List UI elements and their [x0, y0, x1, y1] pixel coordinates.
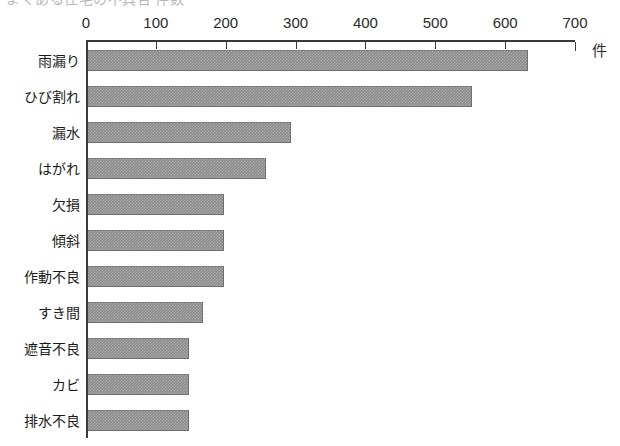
- bar-chart: よくある住宅の不具合 件数 0100200300400500600700 件 雨…: [0, 0, 620, 446]
- category-label-1: ひび割れ: [24, 89, 80, 105]
- category-label-6: 作動不良: [24, 269, 80, 285]
- x-tick-mark-500: [435, 42, 436, 49]
- x-tick-mark-300: [296, 42, 297, 49]
- x-tick-label-600: 600: [493, 14, 518, 32]
- category-label-10: 排水不良: [24, 413, 80, 429]
- category-label-3: はがれ: [38, 161, 80, 177]
- category-label-0: 雨漏り: [38, 53, 80, 69]
- x-tick-label-100: 100: [143, 14, 168, 32]
- bar-6: [88, 266, 224, 287]
- x-tick-label-200: 200: [213, 14, 238, 32]
- x-tick-mark-200: [226, 42, 227, 49]
- x-tick-label-400: 400: [353, 14, 378, 32]
- x-tick-label-300: 300: [283, 14, 308, 32]
- x-axis-tick-labels: 0100200300400500600700: [0, 14, 620, 34]
- bar-2: [88, 122, 291, 143]
- x-axis-unit-label: 件: [592, 42, 607, 60]
- plot-area: [86, 40, 575, 438]
- category-label-5: 傾斜: [52, 233, 80, 249]
- x-tick-mark-600: [505, 42, 506, 49]
- clipped-caption-strip: よくある住宅の不具合 件数: [0, 0, 620, 9]
- x-tick-mark-100: [156, 42, 157, 49]
- bar-7: [88, 302, 203, 323]
- bar-0: [88, 50, 528, 71]
- bar-4: [88, 194, 224, 215]
- category-label-2: 漏水: [52, 125, 80, 141]
- x-tick-label-700: 700: [562, 14, 587, 32]
- bar-9: [88, 374, 189, 395]
- x-tick-label-500: 500: [423, 14, 448, 32]
- category-label-8: 遮音不良: [24, 341, 80, 357]
- category-label-4: 欠損: [52, 197, 80, 213]
- bar-1: [88, 86, 472, 107]
- x-tick-mark-400: [365, 42, 366, 49]
- x-tick-label-0: 0: [82, 14, 90, 32]
- bar-8: [88, 338, 189, 359]
- category-label-7: すき間: [38, 305, 80, 321]
- x-tick-mark-700: [575, 42, 576, 51]
- bar-3: [88, 158, 266, 179]
- category-label-9: カビ: [52, 377, 80, 393]
- clipped-caption-text: よくある住宅の不具合 件数: [6, 0, 184, 8]
- bar-5: [88, 230, 224, 251]
- x-axis-line: [86, 40, 575, 42]
- bar-10: [88, 410, 189, 431]
